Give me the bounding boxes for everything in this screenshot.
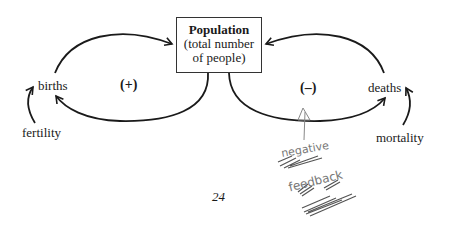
deaths-to-population-arrow [266,34,384,73]
deaths-label: deaths [368,80,401,96]
fertility-to-births-arrow [28,87,35,123]
mortality-label: mortality [376,130,424,146]
population-stock-box: Population (total number of people) [176,17,262,73]
negative-polarity-label: (–) [300,80,316,96]
positive-polarity-label: (+) [120,77,137,93]
fertility-label: fertility [22,125,61,141]
births-to-population-arrow [55,34,172,73]
population-subtitle-1: (total number [177,37,261,51]
page-number: 24 [212,189,225,205]
causal-loop-diagram: Population (total number of people) birt… [0,0,449,232]
births-label: births [38,78,68,94]
handwritten-arrow [298,108,310,140]
population-title: Population [177,23,261,37]
mortality-to-deaths-arrow [403,88,410,125]
population-subtitle-2: of people) [177,51,261,65]
